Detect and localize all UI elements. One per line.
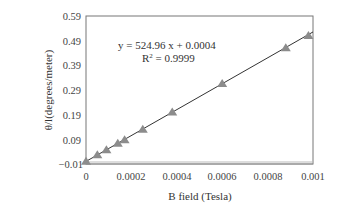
y-tick: 0.09 xyxy=(63,135,81,146)
fit-equation: y = 524.96 x + 0.0004 xyxy=(118,39,216,51)
x-axis-label: B field (Tesla) xyxy=(168,190,232,203)
y-tick: 0.59 xyxy=(63,11,81,22)
x-tick: 0.0002 xyxy=(117,171,146,182)
x-tick: 0.001 xyxy=(301,171,325,182)
x-tick: 0 xyxy=(83,171,88,182)
scatter-chart: 0.59 0.49 0.39 0.29 0.19 0.09 −0.01 0 0.… xyxy=(0,0,346,217)
x-tick: 0.0008 xyxy=(254,171,283,182)
y-axis-label: θ/l(degrees/meter) xyxy=(42,49,55,130)
y-tick: 0.39 xyxy=(63,60,81,71)
x-tick: 0.0006 xyxy=(208,171,237,182)
y-tick: 0.29 xyxy=(63,85,81,96)
y-tick: −0.01 xyxy=(59,159,83,170)
x-tick: 0.0004 xyxy=(163,171,193,182)
y-tick: 0.49 xyxy=(63,36,81,47)
x-tick-labels: 0 0.0002 0.0004 0.0006 0.0008 0.001 xyxy=(83,171,324,182)
r-squared-value: = 0.9999 xyxy=(153,52,195,64)
y-tick: 0.19 xyxy=(63,110,81,121)
y-tick-labels: 0.59 0.49 0.39 0.29 0.19 0.09 −0.01 xyxy=(59,11,83,170)
